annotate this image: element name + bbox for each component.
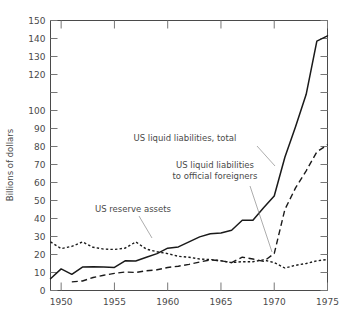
annot-official-label-line2: to official foreigners [173,171,259,181]
chart-figure: 0102030405060708090100120130140150 19501… [0,0,347,320]
y-axis-tick-labels: 0102030405060708090100120130140150 [28,16,45,296]
y-tick-label: 70 [34,160,46,170]
series-line-solid [51,36,328,279]
annot-total-label: US liquid liabilities, total [134,133,237,143]
y-tick-label: 130 [28,52,45,62]
y-axis-title: Billions of dollars [5,128,15,201]
x-axis-ticks [61,21,327,291]
annot-official-label-line1: US liquid liabilities [176,160,255,170]
y-tick-label: 10 [34,268,46,278]
annot-reserve-leader-line [139,216,152,238]
annot-reserve-label: US reserve assets [95,204,172,214]
y-tick-label: 60 [34,178,46,188]
x-tick-label: 1970 [263,297,286,307]
x-tick-label: 1960 [156,297,179,307]
chart-canvas: 0102030405060708090100120130140150 19501… [0,0,347,320]
y-tick-label: 20 [34,250,46,260]
x-axis-tick-labels: 195019551960196519701975 [50,297,339,307]
y-tick-label: 80 [34,142,46,152]
x-tick-label: 1950 [50,297,73,307]
y-tick-label: 150 [28,16,45,26]
y-tick-label: 0 [40,286,46,296]
y-tick-label: 100 [28,106,45,116]
y-tick-label: 140 [28,34,45,44]
x-tick-label: 1955 [103,297,126,307]
y-tick-label: 120 [28,70,45,80]
data-series-layer [51,36,328,282]
x-tick-label: 1965 [210,297,233,307]
annot-total-leader-line [257,146,275,166]
annotation-layer: US liquid liabilities, totalUS liquid li… [95,133,275,252]
x-tick-label: 1975 [316,297,339,307]
y-tick-label: 30 [34,232,46,242]
y-tick-label: 40 [34,214,46,224]
y-tick-label: 50 [34,196,46,206]
y-tick-label: 90 [34,124,46,134]
